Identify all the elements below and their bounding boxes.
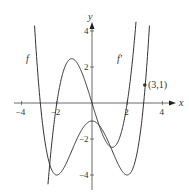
y-tick-label: 4: [84, 26, 89, 36]
y-axis-label: y: [87, 11, 93, 22]
y-tick-label: −2: [79, 134, 89, 144]
f-label: f: [26, 53, 30, 64]
axes: x y: [14, 11, 184, 190]
plot-area: x y −4−22442−2−4 (3,1) f f′: [0, 0, 189, 195]
x-tick-label: −4: [16, 107, 26, 117]
y-axis-arrow-icon: [90, 22, 95, 29]
point-label: (3,1): [148, 79, 167, 91]
y-tick-label: −4: [79, 170, 89, 180]
point-3-1-marker: [143, 83, 147, 87]
x-axis-label: x: [178, 97, 184, 108]
x-axis-arrow-icon: [169, 101, 176, 106]
y-tick-label: 2: [84, 62, 89, 72]
x-tick-label: 4: [159, 107, 164, 117]
f-prime-label: f′: [117, 53, 123, 64]
